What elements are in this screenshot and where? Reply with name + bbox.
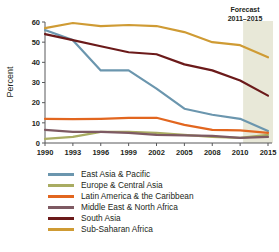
forecast-band bbox=[243, 21, 273, 143]
legend-color-swatch bbox=[48, 228, 74, 231]
x-axis-tick-label: 2005 bbox=[176, 148, 193, 157]
series-line bbox=[45, 23, 268, 57]
legend-item[interactable]: Sub-Saharan Africa bbox=[48, 224, 194, 235]
x-axis-tick-label: 1996 bbox=[92, 148, 109, 157]
legend-color-swatch bbox=[48, 217, 74, 220]
x-axis-tick-label: 2002 bbox=[148, 148, 165, 157]
legend-item[interactable]: Middle East & North Africa bbox=[48, 202, 194, 213]
y-axis-tick-labels: 0102030405060 bbox=[32, 18, 40, 148]
legend-color-swatch bbox=[48, 184, 74, 187]
legend-item[interactable]: Europe & Central Asia bbox=[48, 180, 194, 191]
y-axis-tick-label: 50 bbox=[32, 38, 40, 47]
forecast-label-line1: Forecast bbox=[230, 6, 260, 13]
legend-item-label: East Asia & Pacific bbox=[81, 169, 150, 180]
y-axis-tick-label: 20 bbox=[32, 98, 40, 107]
legend-color-swatch bbox=[48, 195, 74, 198]
y-axis-tick-label: 10 bbox=[32, 119, 40, 128]
chart-legend: East Asia & PacificEurope & Central Asia… bbox=[48, 169, 194, 235]
series-line bbox=[45, 34, 268, 96]
line-chart-canvas: 0102030405060 19901993199619992002200520… bbox=[0, 0, 279, 168]
y-axis-tick-label: 40 bbox=[32, 58, 40, 67]
forecast-shaded-region bbox=[243, 21, 273, 143]
legend-item-label: Europe & Central Asia bbox=[81, 180, 163, 191]
x-axis-tick-label: 1990 bbox=[37, 148, 54, 157]
y-axis-title: Percent bbox=[5, 66, 15, 98]
y-axis-tick-label: 60 bbox=[32, 18, 40, 27]
y-axis-tick-label: 0 bbox=[36, 139, 40, 148]
legend-item[interactable]: Latin America & the Caribbean bbox=[48, 191, 194, 202]
x-axis-tick-label: 2008 bbox=[204, 148, 221, 157]
series-line bbox=[45, 118, 268, 133]
legend-color-swatch bbox=[48, 206, 74, 209]
x-axis-tick-label: 2015 bbox=[260, 148, 277, 157]
data-series-lines bbox=[45, 23, 268, 139]
legend-item-label: Sub-Saharan Africa bbox=[81, 224, 153, 235]
y-axis-tick-label: 30 bbox=[32, 78, 40, 87]
x-axis-tick-label: 1999 bbox=[120, 148, 137, 157]
forecast-label-line2: 2011–2015 bbox=[228, 15, 263, 22]
x-axis-tick-label: 1993 bbox=[65, 148, 82, 157]
legend-item-label: Middle East & North Africa bbox=[81, 202, 178, 213]
legend-item-label: Latin America & the Caribbean bbox=[81, 191, 194, 202]
legend-color-swatch bbox=[48, 173, 74, 176]
x-axis-tick-label: 2010 bbox=[232, 148, 249, 157]
x-axis-tick-labels: 199019931996199920022005200820102015 bbox=[37, 148, 277, 157]
legend-item[interactable]: South Asia bbox=[48, 213, 194, 224]
legend-item[interactable]: East Asia & Pacific bbox=[48, 169, 194, 180]
chart-figure: 0102030405060 19901993199619992002200520… bbox=[0, 0, 279, 252]
legend-item-label: South Asia bbox=[81, 213, 121, 224]
